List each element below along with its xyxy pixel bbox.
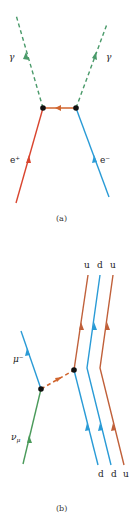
- photon-line-left: [16, 15, 43, 108]
- arrow-icon: [55, 105, 61, 111]
- label-positron: e⁺: [10, 155, 20, 165]
- label-quark-bottom-3: u: [123, 469, 129, 479]
- vertex-dot: [71, 367, 77, 373]
- vertex-dot: [73, 105, 79, 111]
- diagram-b: u d u d d u μ⁻ νμ (b): [11, 260, 129, 513]
- caption-b: (b): [56, 504, 67, 513]
- neutrino-line: [23, 389, 41, 464]
- label-quark-top-3: u: [110, 260, 116, 270]
- caption-a: (a): [56, 214, 67, 223]
- photon-line-right: [76, 24, 107, 108]
- label-muon: μ⁻: [13, 354, 24, 364]
- label-photon-left: γ: [9, 52, 15, 62]
- label-quark-top-1: u: [84, 260, 90, 270]
- vertex-dot: [38, 386, 44, 392]
- label-electron: e⁻: [100, 155, 110, 165]
- label-quark-bottom-1: d: [98, 469, 104, 479]
- arrow-icon: [85, 423, 90, 431]
- label-quark-top-2: d: [97, 260, 103, 270]
- arrow-icon: [25, 348, 30, 356]
- label-photon-right: γ: [106, 52, 112, 62]
- arrow-icon: [55, 377, 62, 382]
- label-neutrino: νμ: [11, 432, 20, 444]
- muon-line: [21, 331, 41, 389]
- electron-line: [76, 108, 109, 197]
- label-quark-bottom-2: d: [111, 469, 117, 479]
- arrow-icon: [26, 155, 31, 163]
- diagram-a: γ γ e⁺ e⁻ (a): [9, 15, 112, 223]
- quark-line-d-bottom: [74, 370, 98, 465]
- vertex-dot: [40, 105, 46, 111]
- arrow-icon: [23, 52, 29, 60]
- label-neutrino-sub: μ: [16, 436, 20, 444]
- arrow-icon: [92, 155, 97, 163]
- feynman-diagrams: γ γ e⁺ e⁻ (a) u d u: [0, 0, 140, 522]
